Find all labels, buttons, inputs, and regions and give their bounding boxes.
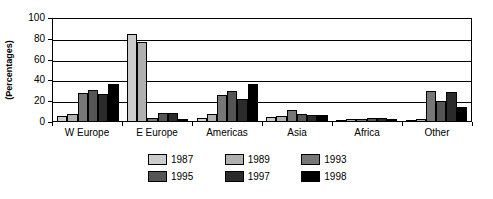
legend-item[interactable]: 1995: [148, 169, 225, 184]
bar: [406, 120, 416, 122]
legend-swatch: [301, 154, 320, 165]
plot-area: [52, 18, 472, 122]
legend-item[interactable]: 1997: [225, 169, 302, 184]
bar: [197, 118, 207, 121]
x-tick-label: Africa: [332, 126, 402, 139]
bar: [436, 101, 446, 121]
bar: [446, 92, 456, 121]
legend-swatch: [301, 171, 320, 182]
legend-item[interactable]: 1993: [301, 152, 378, 167]
legend-swatch: [148, 171, 167, 182]
bar-group-bars: [266, 19, 327, 121]
y-tick-label: 20: [1, 96, 45, 106]
bar: [297, 114, 307, 121]
bar: [387, 119, 397, 121]
bar: [127, 34, 137, 121]
y-tick-label: 60: [1, 55, 45, 65]
legend-label: 1998: [324, 171, 346, 182]
bar-group: [401, 19, 471, 121]
y-tick-label: 100: [1, 13, 45, 23]
bar-group: [53, 19, 123, 121]
x-tick-label: E Europe: [122, 126, 192, 139]
x-tick-label: Other: [402, 126, 472, 139]
bar: [158, 113, 168, 121]
bar: [276, 116, 286, 121]
x-tick-mark: [472, 122, 473, 126]
bar: [108, 84, 118, 121]
bar: [367, 118, 377, 121]
bar: [426, 91, 436, 121]
bar-group: [123, 19, 193, 121]
legend-item[interactable]: 1987: [148, 152, 225, 167]
bar: [227, 91, 237, 121]
bar: [67, 114, 77, 121]
bar-groups: [53, 19, 471, 121]
legend-swatch: [225, 154, 244, 165]
bar: [178, 119, 188, 121]
x-axis-labels: W EuropeE EuropeAmericasAsiaAfricaOther: [52, 126, 472, 139]
bar: [207, 114, 217, 121]
x-tick-label: Americas: [192, 126, 262, 139]
bar: [457, 107, 467, 121]
bar: [346, 119, 356, 121]
legend-item[interactable]: 1998: [301, 169, 378, 184]
bar: [237, 99, 247, 121]
bar: [137, 42, 147, 121]
bar: [88, 90, 98, 121]
y-tick-label: 40: [1, 75, 45, 85]
legend-swatch: [225, 171, 244, 182]
x-tick-label: Asia: [262, 126, 332, 139]
x-tick-label: W Europe: [52, 126, 122, 139]
legend-label: 1987: [171, 154, 193, 165]
bar: [416, 119, 426, 121]
chart-root: (Percentages) 020406080100 W EuropeE Eur…: [0, 0, 493, 199]
bar: [98, 94, 108, 121]
legend-item[interactable]: 1989: [225, 152, 302, 167]
bar: [356, 119, 366, 121]
bar: [248, 84, 258, 121]
bar-group-bars: [336, 19, 397, 121]
y-axis-ticks: 020406080100: [0, 18, 52, 122]
bar-group: [192, 19, 262, 121]
bar: [57, 116, 67, 121]
y-tick-label: 80: [1, 34, 45, 44]
legend-swatch: [148, 154, 167, 165]
bar: [377, 118, 387, 121]
bar-group-bars: [57, 19, 118, 121]
y-tick-label: 0: [1, 117, 45, 127]
bar: [147, 118, 157, 121]
bar: [78, 93, 88, 121]
legend-label: 1993: [324, 154, 346, 165]
bar: [317, 115, 327, 121]
bar-group: [262, 19, 332, 121]
bar-group-bars: [127, 19, 188, 121]
bar: [307, 115, 317, 121]
chart-legend: 198719891993199519971998: [148, 152, 378, 186]
bar-group-bars: [197, 19, 258, 121]
bar: [266, 117, 276, 121]
bar: [287, 110, 297, 121]
bar: [217, 95, 227, 121]
bar: [336, 120, 346, 122]
legend-label: 1997: [248, 171, 270, 182]
legend-label: 1995: [171, 171, 193, 182]
bar: [168, 113, 178, 121]
bar-group: [332, 19, 402, 121]
plot-frame: [52, 18, 472, 122]
bar-group-bars: [406, 19, 467, 121]
legend-label: 1989: [248, 154, 270, 165]
